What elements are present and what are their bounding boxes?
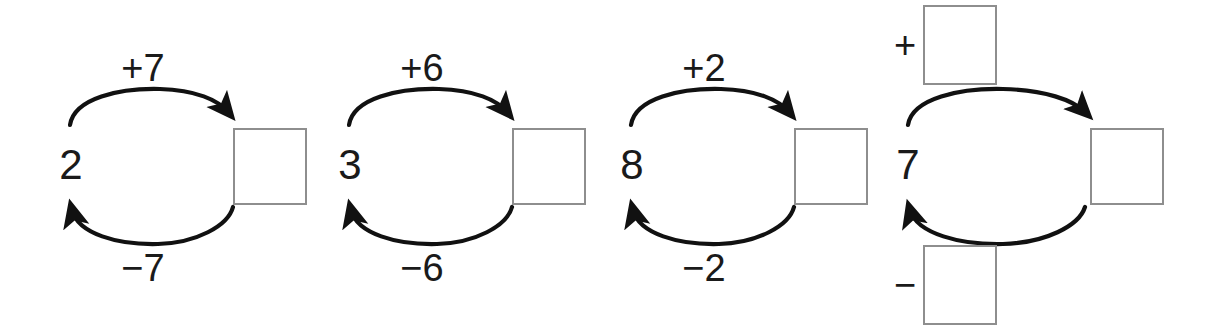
number-machine-diagram-2: 3 +6 −6 <box>279 0 579 335</box>
start-number: 7 <box>883 140 933 190</box>
subtract-operation-label: −7 <box>88 248 198 288</box>
start-number: 8 <box>607 140 657 190</box>
answer-box[interactable] <box>1090 128 1164 205</box>
start-number: 3 <box>325 140 375 190</box>
subtract-operation-label: −6 <box>367 248 477 288</box>
add-operation-label: +6 <box>367 48 477 88</box>
number-machine-diagram-3: 8 +2 −2 <box>561 0 861 335</box>
add-operand-box[interactable] <box>923 5 997 85</box>
minus-sign-icon: − <box>891 245 919 325</box>
subtract-operation-label: −2 <box>649 248 759 288</box>
add-operation-row: + <box>885 5 1045 85</box>
add-operation-label: +7 <box>88 48 198 88</box>
add-operation-label: +2 <box>649 48 759 88</box>
number-machine-diagram-4: 7 + − <box>845 0 1212 335</box>
worksheet-canvas: 2 +7 −7 3 +6 −6 <box>0 0 1212 335</box>
number-machine-diagram-1: 2 +7 −7 <box>0 0 300 335</box>
start-number: 2 <box>46 140 96 190</box>
subtract-operation-row: − <box>885 245 1045 325</box>
plus-sign-icon: + <box>891 5 919 85</box>
subtract-operand-box[interactable] <box>923 245 997 325</box>
